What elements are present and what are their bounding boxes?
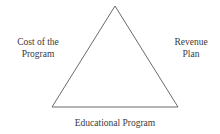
label-cost-of-the-program-line2: Program xyxy=(4,48,72,60)
label-revenue-plan-line2: Plan xyxy=(164,48,218,60)
label-cost-of-the-program-line1: Cost of the xyxy=(4,36,72,48)
label-educational-program-line1: Educational Program xyxy=(40,117,190,129)
label-revenue-plan: Revenue Plan xyxy=(164,36,218,60)
label-cost-of-the-program: Cost of the Program xyxy=(4,36,72,60)
label-revenue-plan-line1: Revenue xyxy=(164,36,218,48)
label-educational-program: Educational Program xyxy=(40,117,190,129)
triangle-shape xyxy=(0,0,220,134)
triangle-diagram-canvas: Cost of the Program Revenue Plan Educati… xyxy=(0,0,220,134)
